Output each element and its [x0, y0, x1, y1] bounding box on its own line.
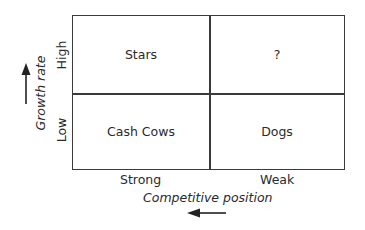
x-axis-label: Competitive position [143, 190, 273, 206]
arrow-up-icon [20, 63, 32, 105]
arrow-left-icon [187, 207, 227, 219]
y-tick-high: High [54, 37, 70, 73]
y-axis-label: Growth rate [33, 48, 49, 138]
matrix-grid: Stars ? Cash Cows Dogs [72, 15, 345, 170]
x-tick-strong: Strong [120, 172, 161, 188]
quadrant-dogs: Dogs [210, 94, 344, 169]
y-tick-low: Low [54, 112, 70, 148]
quadrant-label: Stars [125, 47, 157, 62]
quadrant-cash-cows: Cash Cows [73, 94, 209, 169]
quadrant-label: Dogs [261, 124, 293, 139]
quadrant-label: Cash Cows [107, 124, 175, 139]
quadrant-label: ? [274, 47, 281, 62]
quadrant-stars: Stars [73, 16, 209, 93]
quadrant-question-mark: ? [210, 16, 344, 93]
x-tick-weak: Weak [260, 172, 294, 188]
